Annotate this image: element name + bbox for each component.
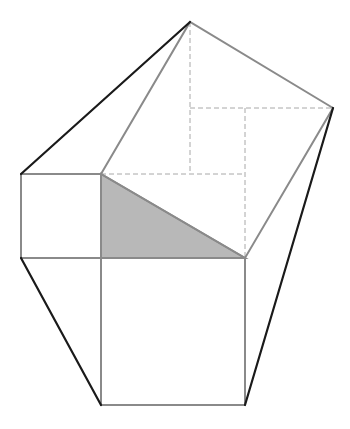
- small-leg-square: [21, 174, 101, 258]
- dark-connecting-line-1: [21, 22, 190, 174]
- dark-connecting-line-3: [245, 108, 333, 405]
- geometry-diagram: [0, 0, 350, 429]
- dark-connecting-line-2: [21, 258, 101, 405]
- large-leg-square: [101, 258, 245, 405]
